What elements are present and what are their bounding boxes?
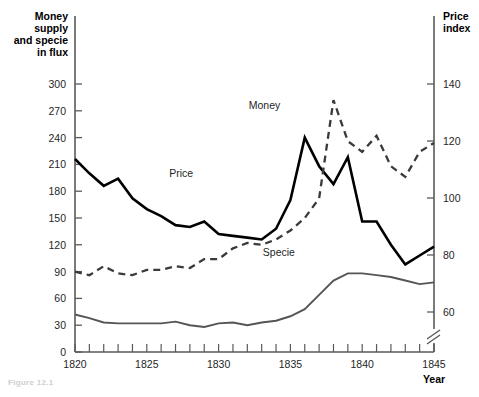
right-tick-label: 120: [443, 135, 461, 147]
left-tick-label: 90: [54, 266, 66, 278]
left-tick-label: 180: [48, 185, 66, 197]
x-tick-label: 1835: [279, 358, 303, 370]
left-tick-label: 210: [48, 158, 66, 170]
x-tick-label: 1825: [135, 358, 159, 370]
right-axis-title: Priceindex: [443, 10, 471, 34]
x-tick-label: 1820: [63, 358, 87, 370]
left-tick-label: 30: [54, 319, 66, 331]
right-tick-label: 100: [443, 192, 461, 204]
right-tick-label: 80: [443, 249, 455, 261]
left-axis-title-line: supply: [34, 22, 68, 34]
left-tick-label: 0: [60, 346, 66, 358]
series-line-money: [75, 100, 434, 275]
left-tick-label: 60: [54, 292, 66, 304]
x-tick-label: 1840: [351, 358, 375, 370]
series-label-money: Money: [249, 99, 281, 111]
left-axis-title: Moneysupplyand speciein flux: [14, 10, 68, 58]
right-tick-label: 60: [443, 306, 455, 318]
line-chart-svg: Moneysupplyand speciein flux Priceindex …: [0, 0, 479, 397]
x-axis-ticks: 182018251830183518401845: [63, 344, 446, 370]
right-tick-label: 140: [443, 78, 461, 90]
right-axis-break-icon: [427, 329, 440, 344]
series-label-specie: Specie: [263, 246, 295, 258]
left-tick-label: 270: [48, 105, 66, 117]
left-tick-label: 300: [48, 78, 66, 90]
right-axis-title-line: index: [443, 22, 471, 34]
series-inline-labels: PriceMoneySpecie: [169, 99, 295, 258]
figure-caption: Figure 12.1: [8, 378, 54, 387]
chart-figure: Moneysupplyand speciein flux Priceindex …: [0, 0, 479, 397]
x-axis-title: Year: [423, 373, 445, 385]
x-tick-label: 1845: [422, 358, 446, 370]
left-tick-label: 150: [48, 212, 66, 224]
x-tick-label: 1830: [207, 358, 231, 370]
series-line-specie: [75, 273, 434, 327]
left-tick-label: 120: [48, 239, 66, 251]
left-axis-title-line: Money: [35, 10, 68, 22]
left-axis-title-line: in flux: [37, 46, 68, 58]
left-axis-title-line: and specie: [14, 34, 68, 46]
series-layer: [75, 100, 434, 327]
series-label-price: Price: [169, 167, 193, 179]
left-tick-label: 240: [48, 132, 66, 144]
right-axis-title-line: Price: [443, 10, 469, 22]
series-line-price: [75, 138, 434, 265]
left-axis-ticks: 0306090120150180210240270300: [48, 78, 82, 358]
x-axis-title-text: Year: [423, 373, 445, 385]
